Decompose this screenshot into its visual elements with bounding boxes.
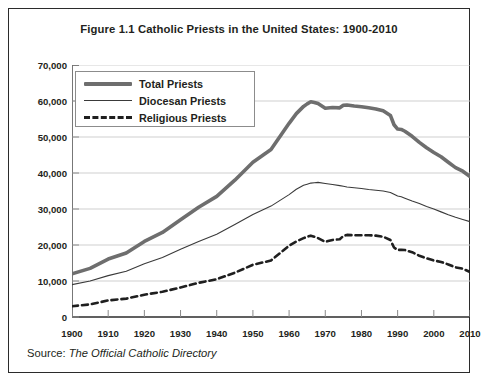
y-tick-label: 20,000 <box>38 240 67 251</box>
x-axis-ticks <box>72 310 470 317</box>
x-tick-label: 1910 <box>98 328 119 339</box>
data-series <box>72 102 470 307</box>
legend-item: Religious Priests <box>76 109 254 126</box>
y-tick-label: 70,000 <box>38 60 67 71</box>
x-tick-label: 1920 <box>134 328 155 339</box>
line-thin-icon <box>84 94 132 108</box>
y-tick-label: 30,000 <box>38 204 67 215</box>
x-tick-label: 2000 <box>423 328 444 339</box>
y-tick-label: 50,000 <box>38 132 67 143</box>
y-tick-label: 60,000 <box>38 96 67 107</box>
series-line <box>72 102 470 274</box>
x-axis-tick-labels: 1900191019201930194019501960197019801990… <box>9 328 487 348</box>
source-label: Source: <box>27 347 66 359</box>
series-line <box>72 235 470 306</box>
y-tick-label: 40,000 <box>38 168 67 179</box>
legend-item-label: Total Priests <box>139 78 203 90</box>
series-line <box>72 182 470 284</box>
x-tick-label: 1990 <box>387 328 408 339</box>
x-tick-label: 1900 <box>61 328 82 339</box>
y-tick-label: 10,000 <box>38 276 67 287</box>
chart-legend: Total PriestsDiocesan PriestsReligious P… <box>75 71 255 127</box>
x-tick-label: 1940 <box>206 328 227 339</box>
x-tick-label: 1960 <box>278 328 299 339</box>
legend-item-label: Religious Priests <box>139 112 227 124</box>
x-tick-label: 1950 <box>242 328 263 339</box>
x-tick-label: 1980 <box>351 328 372 339</box>
x-tick-label: 2010 <box>459 328 480 339</box>
x-tick-label: 1970 <box>315 328 336 339</box>
source-title: The Official Catholic Directory <box>69 347 217 359</box>
legend-item: Diocesan Priests <box>76 92 254 109</box>
figure-frame: Figure 1.1 Catholic Priests in the Unite… <box>8 8 470 373</box>
line-thick-icon <box>84 77 132 91</box>
legend-item-label: Diocesan Priests <box>139 95 226 107</box>
y-tick-label: 0 <box>62 312 67 323</box>
x-tick-label: 1930 <box>170 328 191 339</box>
line-dashed-icon <box>84 111 132 125</box>
legend-item: Total Priests <box>76 75 254 92</box>
chart-title: Figure 1.1 Catholic Priests in the Unite… <box>9 23 469 35</box>
source-note: Source: The Official Catholic Directory <box>27 347 217 359</box>
